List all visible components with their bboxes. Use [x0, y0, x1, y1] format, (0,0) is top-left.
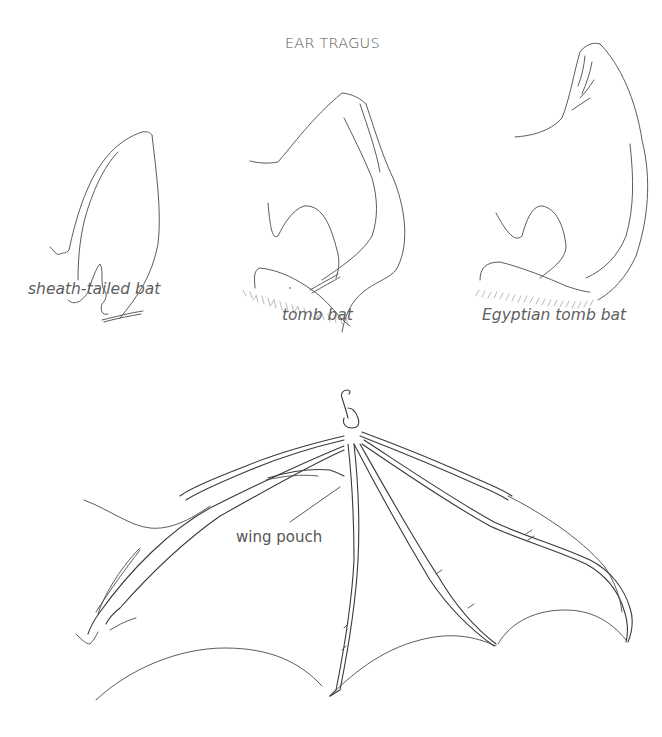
egyptian-tomb-bat-ear-drawing: [476, 43, 648, 308]
wing-pouch-label: wing pouch: [236, 528, 322, 546]
caption-sheath-tailed-bat: sheath-tailed bat: [28, 280, 160, 298]
figure-title: EAR TRAGUS: [285, 35, 380, 51]
diagram-canvas: EAR TRAGUS sheath-tailed bat tomb bat Eg…: [0, 0, 662, 737]
caption-tomb-bat: tomb bat: [282, 306, 353, 324]
tomb-bat-ear-drawing: [243, 93, 405, 332]
caption-egyptian-tomb-bat: Egyptian tomb bat: [482, 306, 626, 324]
bat-wing-drawing: [76, 390, 632, 700]
illustration: [0, 0, 662, 737]
